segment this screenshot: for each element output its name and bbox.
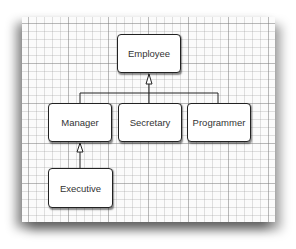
class-box-employee: Employee <box>117 34 181 73</box>
class-label: Employee <box>128 48 170 59</box>
class-box-manager: Manager <box>48 103 112 142</box>
class-box-executive: Executive <box>48 168 113 208</box>
class-box-secretary: Secretary <box>118 103 182 142</box>
class-label: Secretary <box>130 117 171 128</box>
inheritance-arrow-icon <box>146 74 152 84</box>
class-label: Executive <box>60 183 101 194</box>
class-box-programmer: Programmer <box>187 103 251 142</box>
inheritance-arrow-icon <box>77 143 83 152</box>
class-label: Manager <box>61 117 99 128</box>
class-label: Programmer <box>193 117 246 128</box>
